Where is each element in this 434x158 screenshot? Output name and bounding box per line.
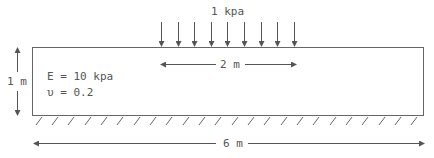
modulus-label: E = 10 kpa [47,70,113,83]
width-label: 6 m [223,137,243,150]
distributed-load-arrows [162,22,295,46]
poisson-label: υ = 0.2 [47,86,93,99]
load-width-label: 2 m [220,58,240,71]
diagram-canvas: 1 kpa 2 m 1 m E = 10 kpa υ = 0.2 [0,0,434,158]
fixed-support-hatching [36,117,417,125]
height-label: 1 m [7,75,27,88]
load-label: 1 kpa [211,5,244,18]
